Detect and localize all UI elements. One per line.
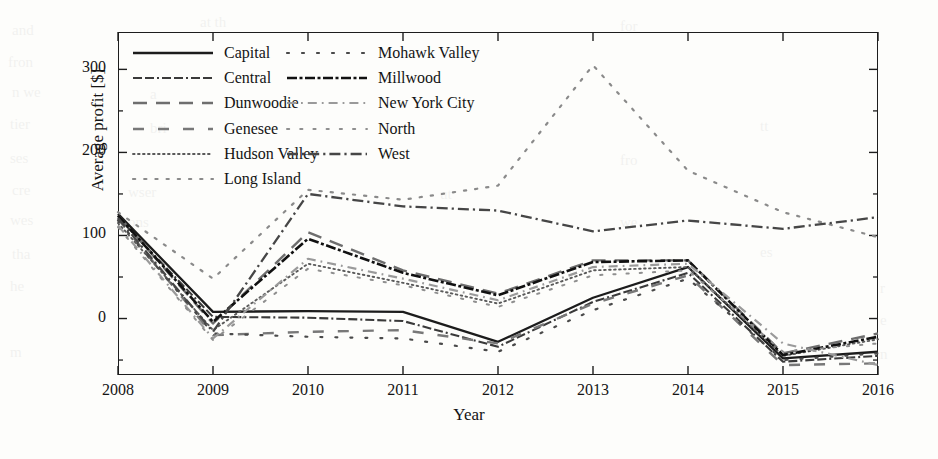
legend-label: Genesee <box>224 121 278 137</box>
legend-swatch <box>131 172 215 186</box>
x-tick-label: 2014 <box>658 381 718 399</box>
y-tick-label: 300 <box>46 58 106 76</box>
legend-item: Dunwoodie <box>131 91 281 116</box>
y-tick-label: 100 <box>46 224 106 242</box>
legend-swatch <box>131 71 215 85</box>
y-tick-label: 200 <box>46 141 106 159</box>
legend-label: West <box>378 146 410 162</box>
x-tick-label: 2013 <box>563 381 623 399</box>
legend-swatch <box>131 147 215 161</box>
series-line <box>118 216 878 354</box>
legend-label: Long Island <box>224 171 301 187</box>
legend-swatch <box>131 122 215 136</box>
legend-swatch <box>131 46 215 60</box>
legend-swatch <box>285 71 369 85</box>
chart-legend: CapitalCentralDunwoodieGeneseeHudson Val… <box>131 40 561 192</box>
x-axis-title: Year <box>0 405 938 425</box>
x-tick-label: 2016 <box>848 381 908 399</box>
legend-item: Hudson Valley <box>131 141 281 166</box>
y-tick-label: 0 <box>46 308 106 326</box>
legend-item: Mohawk Valley <box>285 40 561 65</box>
legend-swatch <box>285 46 369 60</box>
line-chart-figure: Average profit [$] Year 0100200300 20082… <box>0 0 938 459</box>
x-tick-label: 2008 <box>88 381 148 399</box>
x-tick-label: 2010 <box>278 381 338 399</box>
legend-label: New York City <box>378 95 474 111</box>
legend-label: Capital <box>224 45 270 61</box>
x-tick-label: 2012 <box>468 381 528 399</box>
legend-swatch <box>131 96 215 110</box>
legend-item: New York City <box>285 91 561 116</box>
legend-swatch <box>285 147 369 161</box>
legend-label: Central <box>224 70 271 86</box>
legend-label: North <box>378 121 415 137</box>
legend-item: Capital <box>131 40 281 65</box>
legend-item: West <box>285 141 561 166</box>
legend-item: Long Island <box>131 167 281 192</box>
x-tick-label: 2011 <box>373 381 433 399</box>
legend-swatch <box>285 96 369 110</box>
legend-label: Mohawk Valley <box>378 45 479 61</box>
legend-item: Millwood <box>285 65 561 90</box>
legend-item: Genesee <box>131 116 281 141</box>
x-tick-label: 2015 <box>753 381 813 399</box>
legend-item: Central <box>131 65 281 90</box>
legend-label: Millwood <box>378 70 441 86</box>
legend-swatch <box>285 122 369 136</box>
legend-item: North <box>285 116 561 141</box>
x-tick-label: 2009 <box>183 381 243 399</box>
